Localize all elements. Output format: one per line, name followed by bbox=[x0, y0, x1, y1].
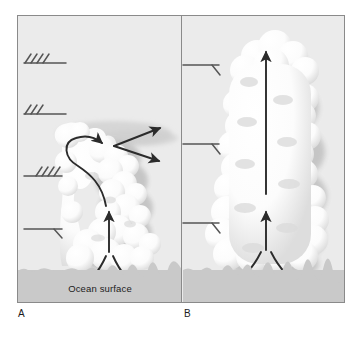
panel-b-artwork bbox=[183, 16, 344, 303]
strong-shear-panel: Ocean surface bbox=[18, 16, 182, 302]
wind-barb-b-2 bbox=[183, 144, 220, 154]
panel-divider bbox=[181, 16, 182, 302]
ocean-wave-edge bbox=[18, 266, 182, 273]
upright-cumulonimbus-cloud bbox=[205, 30, 329, 273]
panel-caption-b: B bbox=[184, 308, 191, 319]
convection-shear-diagram: Ocean surface bbox=[0, 0, 362, 337]
wind-barb-a-3 bbox=[24, 167, 62, 176]
ocean-surface-band: Ocean surface bbox=[18, 270, 182, 302]
weak-shear-panel bbox=[183, 16, 344, 302]
ocean-surface-band-b bbox=[183, 270, 344, 302]
wind-barb-b-1 bbox=[183, 65, 220, 75]
panel-caption-a: A bbox=[18, 308, 25, 319]
wind-barb-a-4 bbox=[24, 229, 62, 238]
ocean-wave-edge-b bbox=[183, 266, 344, 273]
panel-a-artwork bbox=[18, 16, 182, 303]
wind-barb-a-2 bbox=[24, 105, 66, 114]
diagram-panel-frame: Ocean surface bbox=[17, 15, 345, 303]
ocean-surface-label: Ocean surface bbox=[18, 283, 182, 294]
wind-barb-a-1 bbox=[24, 54, 66, 63]
